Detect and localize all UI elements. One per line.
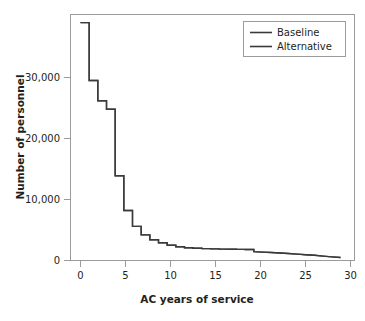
legend-label-baseline: Baseline [277,27,319,38]
y-axis-title: Number of personnel [14,74,26,199]
y-tick-label-20000: 20,000 [25,133,60,144]
x-tick-label-30: 30 [344,270,357,281]
x-axis-title: AC years of service [140,293,253,305]
x-tick-label-15: 15 [209,270,222,281]
chart-figure: 0 10,000 20,000 30,000 0 5 10 15 20 25 3… [0,0,365,321]
x-tick-label-20: 20 [254,270,267,281]
y-tick-label-10000: 10,000 [25,194,60,205]
legend-label-alternative: Alternative [277,41,332,52]
chart-legend: Baseline Alternative [244,22,346,57]
x-tick-label-5: 5 [122,270,128,281]
x-tick-label-0: 0 [77,270,83,281]
x-tick-label-25: 25 [299,270,312,281]
y-tick-label-0: 0 [54,255,60,266]
chart-svg: 0 10,000 20,000 30,000 0 5 10 15 20 25 3… [0,0,365,321]
y-tick-label-30000: 30,000 [25,72,60,83]
x-tick-label-10: 10 [164,270,177,281]
